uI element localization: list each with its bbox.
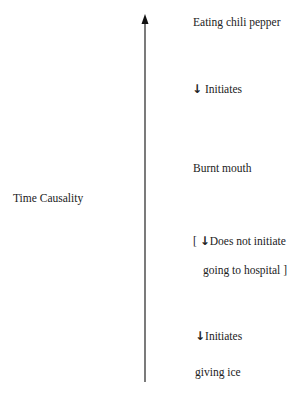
relation-does-not-initiate: [ ↓Does not initiate [193,234,286,248]
relation-initiates-1: ↓ Initiates [192,82,242,96]
down-arrow-icon: ↓ [192,82,202,96]
event-eating-chili-pepper: Eating chili pepper [193,15,281,29]
bracket-open: [ [193,235,197,247]
relation-label: Initiates [205,83,242,95]
relation-does-not-initiate-target: going to hospital ] [203,263,287,277]
time-axis-arrowhead-icon [142,14,149,24]
relation-label: Initiates [205,330,242,342]
relation-label: Does not initiate [210,235,286,247]
down-arrow-icon: ↓ [200,234,210,248]
axis-label: Time Causality [13,191,83,205]
down-arrow-icon: ↓ [195,329,205,343]
relation-initiates-2: ↓Initiates [195,329,242,343]
event-giving-ice: giving ice [195,365,241,379]
event-burnt-mouth: Burnt mouth [193,161,251,175]
